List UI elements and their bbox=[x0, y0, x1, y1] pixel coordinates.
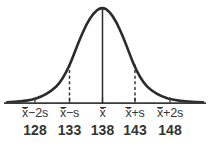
x-bar-glyph: x̄ bbox=[125, 107, 131, 120]
tick-symbol-operator: +s bbox=[131, 107, 144, 120]
tick-symbol-operator: −s bbox=[66, 107, 79, 120]
tick-symbol-minus-1s: x̄−s bbox=[60, 107, 79, 120]
tick-value-minus-2s: 128 bbox=[23, 123, 47, 138]
tick-symbol-operator: −2s bbox=[28, 107, 48, 120]
tick-value-mean: 138 bbox=[91, 123, 115, 138]
tick-value-minus-1s: 133 bbox=[58, 123, 82, 138]
tick-symbol-mean: x̄ bbox=[99, 107, 105, 120]
tick-symbol-plus-2s: x̄+2s bbox=[157, 107, 183, 120]
tick-value-plus-2s: 148 bbox=[158, 123, 182, 138]
x-bar-glyph: x̄ bbox=[60, 107, 66, 120]
x-bar-glyph: x̄ bbox=[22, 107, 28, 120]
tick-symbol-plus-1s: x̄+s bbox=[125, 107, 144, 120]
x-bar-glyph: x̄ bbox=[99, 107, 105, 120]
normal-curve-path bbox=[7, 8, 203, 102]
x-bar-glyph: x̄ bbox=[157, 107, 163, 120]
tick-symbol-operator: +2s bbox=[163, 107, 183, 120]
tick-symbol-minus-2s: x̄−2s bbox=[22, 107, 48, 120]
bell-curve-figure: x̄−2s x̄−s x̄ x̄+s x̄+2s 128 133 138 bbox=[0, 0, 210, 150]
tick-value-plus-1s: 143 bbox=[123, 123, 147, 138]
